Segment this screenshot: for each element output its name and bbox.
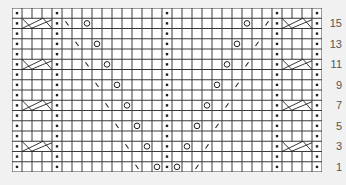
- row-number-label: 3: [322, 141, 342, 151]
- purl-dot-icon: [316, 32, 318, 34]
- purl-dot-icon: [166, 53, 168, 55]
- purl-dot-icon: [16, 125, 18, 127]
- cable-cross-icon: [282, 18, 312, 28]
- purl-dot-icon: [316, 104, 318, 106]
- purl-dot-icon: [316, 135, 318, 137]
- cable-stroke: [31, 102, 52, 111]
- yarn-over-icon: [114, 82, 120, 88]
- yarn-over-icon: [124, 103, 130, 109]
- cable-stroke: [31, 143, 52, 152]
- purl-dot-icon: [56, 63, 58, 65]
- cable-stroke: [22, 100, 43, 110]
- row-number-label: 1: [322, 162, 342, 172]
- purl-dot-icon: [276, 12, 278, 14]
- yarn-over-icon: [214, 82, 220, 88]
- k2tog-decrease-icon: [226, 103, 229, 107]
- cable-cross-icon: [22, 59, 52, 69]
- purl-dot-icon: [276, 73, 278, 75]
- ssk-decrease-icon: [76, 42, 79, 46]
- purl-dot-icon: [56, 155, 58, 157]
- yarn-over-icon: [134, 123, 140, 129]
- purl-dot-icon: [316, 166, 318, 168]
- k2tog-decrease-icon: [256, 42, 259, 46]
- purl-dot-icon: [276, 155, 278, 157]
- purl-dot-icon: [16, 166, 18, 168]
- cable-stroke: [282, 100, 303, 110]
- cable-stroke: [31, 20, 52, 29]
- purl-dot-icon: [276, 22, 278, 24]
- cable-stroke: [291, 61, 312, 70]
- ssk-decrease-icon: [106, 103, 109, 107]
- yarn-over-icon: [94, 41, 100, 47]
- purl-dot-icon: [166, 12, 168, 14]
- purl-dot-icon: [166, 63, 168, 65]
- purl-dot-icon: [316, 84, 318, 86]
- purl-dot-icon: [56, 135, 58, 137]
- purl-dot-icon: [316, 53, 318, 55]
- purl-dot-icon: [16, 43, 18, 45]
- yarn-over-icon: [174, 164, 180, 170]
- purl-dot-icon: [276, 114, 278, 116]
- purl-dot-icon: [56, 125, 58, 127]
- cable-stroke: [22, 100, 32, 110]
- row-number-label: 13: [322, 39, 342, 49]
- purl-dot-icon: [16, 155, 18, 157]
- ssk-decrease-icon: [86, 62, 89, 66]
- cable-cross-icon: [22, 141, 52, 151]
- purl-dot-icon: [166, 114, 168, 116]
- cable-cross-icon: [282, 100, 312, 110]
- purl-dot-icon: [316, 22, 318, 24]
- knitting-chart-grid: [12, 8, 322, 172]
- yarn-over-icon: [234, 41, 240, 47]
- yarn-over-icon: [194, 123, 200, 129]
- k2tog-decrease-icon: [216, 124, 219, 128]
- yarn-over-icon: [84, 21, 90, 27]
- purl-dot-icon: [16, 73, 18, 75]
- row-number-labels: 15131197531: [324, 8, 344, 172]
- purl-dot-icon: [16, 114, 18, 116]
- cable-cross-icon: [22, 18, 52, 28]
- row-number-label: 7: [322, 100, 342, 110]
- purl-dot-icon: [56, 32, 58, 34]
- purl-dot-icon: [56, 104, 58, 106]
- purl-dot-icon: [166, 155, 168, 157]
- cable-cross-icon: [282, 141, 312, 151]
- cable-stroke: [22, 59, 32, 69]
- yarn-over-icon: [104, 62, 110, 68]
- purl-dot-icon: [56, 73, 58, 75]
- purl-dot-icon: [166, 104, 168, 106]
- cable-stroke: [22, 141, 43, 151]
- row-number-label: 9: [322, 80, 342, 90]
- purl-dot-icon: [166, 135, 168, 137]
- purl-dot-icon: [56, 94, 58, 96]
- chart-svg: [12, 8, 322, 172]
- purl-dot-icon: [56, 166, 58, 168]
- cable-stroke: [291, 102, 312, 111]
- row-number-label: 11: [322, 59, 342, 69]
- ssk-decrease-icon: [96, 83, 99, 87]
- cable-stroke: [282, 18, 292, 28]
- cable-stroke: [22, 59, 43, 69]
- purl-dot-icon: [316, 63, 318, 65]
- cable-cross-icon: [22, 100, 52, 110]
- purl-dot-icon: [276, 145, 278, 147]
- purl-dot-icon: [276, 104, 278, 106]
- purl-dot-icon: [166, 166, 168, 168]
- purl-dot-icon: [16, 104, 18, 106]
- purl-dot-icon: [166, 43, 168, 45]
- yarn-over-icon: [184, 144, 190, 150]
- yarn-over-icon: [204, 103, 210, 109]
- purl-dot-icon: [56, 43, 58, 45]
- purl-dot-icon: [276, 43, 278, 45]
- purl-dot-icon: [276, 125, 278, 127]
- ssk-decrease-icon: [66, 21, 69, 25]
- yarn-over-icon: [154, 164, 160, 170]
- purl-dot-icon: [56, 12, 58, 14]
- purl-dot-icon: [166, 32, 168, 34]
- purl-dot-icon: [16, 22, 18, 24]
- purl-dot-icon: [166, 94, 168, 96]
- purl-dot-icon: [166, 145, 168, 147]
- purl-dot-icon: [166, 125, 168, 127]
- purl-dot-icon: [16, 145, 18, 147]
- k2tog-decrease-icon: [246, 62, 249, 66]
